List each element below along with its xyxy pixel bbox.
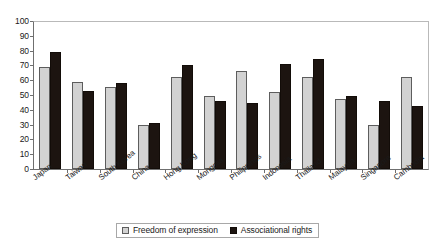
y-axis-tick-label: 20 (20, 135, 29, 144)
bar-group (67, 21, 100, 169)
x-axis-category-labels: JapanTaiwanSouth KoreaChinaHong KongMong… (0, 170, 438, 216)
y-axis-tick-mark (30, 110, 33, 111)
bar-group (395, 21, 428, 169)
bar-freedom-of-expression (302, 77, 313, 169)
y-axis-tick-mark (30, 95, 33, 96)
bar-associational-rights (50, 52, 61, 169)
bar-freedom-of-expression (204, 96, 215, 169)
legend-item-associational-rights: Associational rights (230, 226, 312, 235)
bar-freedom-of-expression (72, 82, 83, 169)
y-axis-tick-label: 10 (20, 150, 29, 159)
bar-group (100, 21, 133, 169)
chart-legend: Freedom of expression Associational righ… (116, 223, 319, 238)
y-axis-tick-label: 30 (20, 120, 29, 129)
bars-layer (34, 21, 428, 169)
bar-group (133, 21, 166, 169)
legend-item-freedom-of-expression: Freedom of expression (122, 226, 218, 235)
y-axis-tick-mark (30, 125, 33, 126)
y-axis: 0102030405060708090100 (0, 21, 29, 170)
bar-associational-rights (83, 91, 94, 169)
bar-group (297, 21, 330, 169)
dark-square-swatch-icon (230, 227, 237, 234)
bar-freedom-of-expression (39, 67, 50, 169)
bar-chart: 0102030405060708090100 JapanTaiwanSouth … (0, 0, 438, 249)
bar-freedom-of-expression (105, 87, 116, 169)
y-axis-tick-mark (30, 51, 33, 52)
bar-group (198, 21, 231, 169)
y-axis-tick-mark (30, 21, 33, 22)
bar-associational-rights (149, 123, 160, 169)
y-axis-tick-mark (30, 65, 33, 66)
y-axis-tick-label: 70 (20, 61, 29, 70)
bar-freedom-of-expression (138, 125, 149, 169)
bar-freedom-of-expression (335, 99, 346, 169)
y-axis-tick-label: 90 (20, 31, 29, 40)
bar-group (231, 21, 264, 169)
y-axis-tick-mark (30, 154, 33, 155)
bar-group (264, 21, 297, 169)
bar-associational-rights (313, 59, 324, 169)
y-axis-tick-label: 100 (15, 17, 29, 26)
y-axis-tick-label: 40 (20, 105, 29, 114)
y-axis-tick-label: 80 (20, 46, 29, 55)
legend-label: Freedom of expression (133, 226, 218, 235)
bar-group (34, 21, 67, 169)
bar-freedom-of-expression (401, 77, 412, 169)
bar-freedom-of-expression (236, 71, 247, 169)
y-axis-tick-mark (30, 36, 33, 37)
y-axis-tick-label: 50 (20, 91, 29, 100)
y-axis-tick-label: 60 (20, 76, 29, 85)
y-axis-tick-mark (30, 139, 33, 140)
y-axis-tick-mark (30, 80, 33, 81)
bar-group (165, 21, 198, 169)
legend-label: Associational rights (241, 226, 312, 235)
bar-group (330, 21, 363, 169)
bar-group (362, 21, 395, 169)
bar-freedom-of-expression (171, 77, 182, 169)
light-square-swatch-icon (122, 227, 129, 234)
bar-associational-rights (280, 64, 291, 169)
bar-freedom-of-expression (269, 92, 280, 169)
